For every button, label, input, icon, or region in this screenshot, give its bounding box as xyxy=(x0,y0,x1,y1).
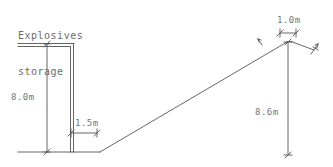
explosives-storage-label-line2: storage xyxy=(18,66,83,78)
barricade-slope-line xyxy=(100,42,287,152)
explosives-storage-label: Explosives storage xyxy=(18,6,83,102)
dimension-label-crest-width: 1.0m xyxy=(277,15,301,25)
dimension-label-wall-height: 8.0m xyxy=(11,92,35,102)
technical-drawing-canvas: Explosives storage 8.0m 1.5m 1.0m 8.6m xyxy=(0,0,333,167)
dimension-label-barricade-height: 8.6m xyxy=(255,107,279,117)
explosives-storage-label-line1: Explosives xyxy=(18,30,83,42)
barricade-back-slope-line xyxy=(291,42,314,51)
dimension-label-wall-offset: 1.5m xyxy=(75,118,99,128)
